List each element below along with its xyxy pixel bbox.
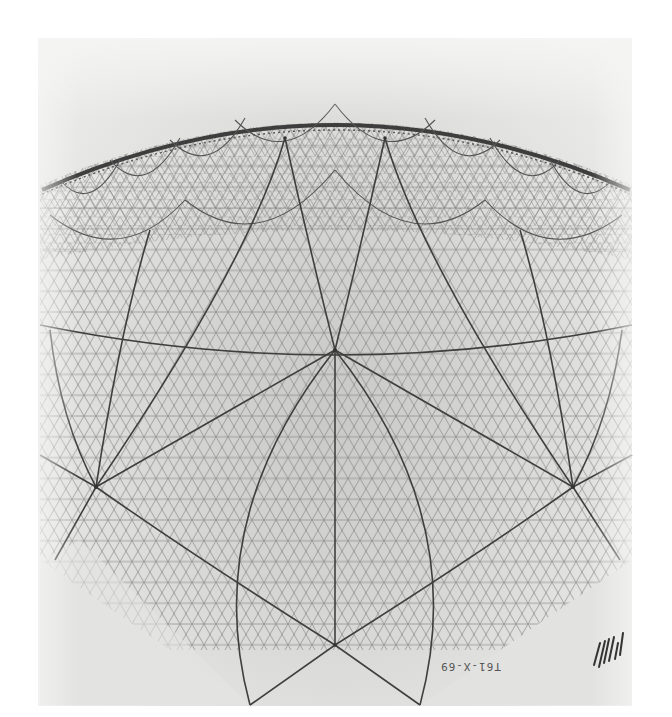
geodesic-dome-drawing	[0, 0, 672, 717]
signature-mark	[588, 625, 628, 675]
lattice	[40, 90, 634, 705]
inscription-text: T61-X-69	[440, 660, 501, 673]
